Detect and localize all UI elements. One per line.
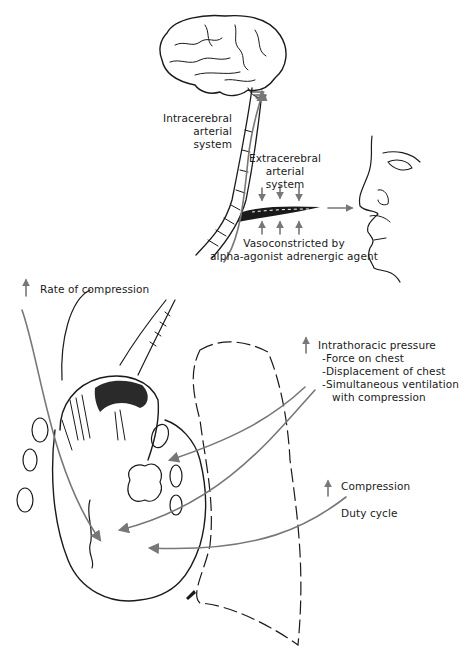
- intrathoracic-pressure-label: Intrathoracic pressure -Force on chest -…: [318, 339, 459, 404]
- ink-mark: [186, 590, 196, 600]
- intrathoracic-item: with compression: [318, 391, 459, 404]
- arrow-rate-compression: [22, 310, 100, 540]
- lung-outline-icon: [193, 342, 301, 645]
- compression-label: Compression: [341, 480, 410, 493]
- intrathoracic-item: -Displacement of chest: [318, 365, 459, 378]
- intrathoracic-item: -Simultaneous ventilation: [318, 378, 459, 391]
- heart-icon: [17, 376, 206, 601]
- intrathoracic-item: -Force on chest: [318, 352, 459, 365]
- duty-cycle-label: Duty cycle: [341, 507, 398, 520]
- intracerebral-label: Intracerebral arterial system: [110, 112, 232, 151]
- arrow-compression: [150, 497, 346, 549]
- vasoconstricted-label: Vasoconstricted by alpha-agonist adrener…: [204, 237, 384, 263]
- aortic-vessels-drawing: [62, 290, 175, 380]
- extracerebral-label: Extracerebral arterial system: [240, 152, 330, 191]
- rate-of-compression-label: Rate of compression: [40, 283, 149, 296]
- brain-icon: [160, 16, 286, 98]
- arrow-intrathoracic-2: [120, 390, 315, 530]
